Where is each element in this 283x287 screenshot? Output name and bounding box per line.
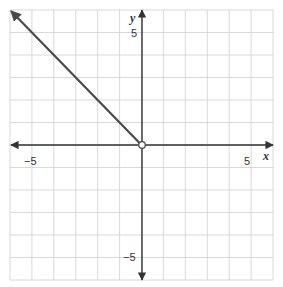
y-axis-label: y xyxy=(128,11,136,25)
x-tick-neg5: −5 xyxy=(24,155,37,167)
y-tick-neg5: −5 xyxy=(123,251,136,263)
x-axis-label: x xyxy=(262,149,269,163)
coordinate-plane: y x −5 5 5 −5 xyxy=(0,0,283,287)
ray-line xyxy=(11,11,142,145)
y-tick-pos5: 5 xyxy=(131,27,137,39)
x-tick-pos5: 5 xyxy=(244,155,250,167)
open-circle-origin xyxy=(139,142,146,149)
